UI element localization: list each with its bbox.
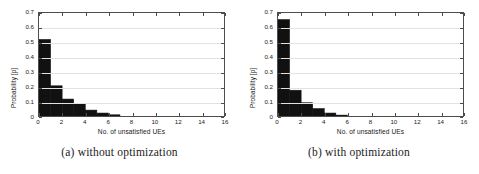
y-tick-mark <box>278 43 281 44</box>
plot-wrap-b: Probability [p] 00.10.20.30.40.50.60.7 0… <box>239 0 479 142</box>
histogram-bar <box>39 39 51 116</box>
histogram-bar <box>278 20 290 116</box>
x-tick-mark <box>86 113 87 116</box>
x-tick-label: 4 <box>83 119 86 125</box>
x-tick-label: 12 <box>175 119 182 125</box>
x-tick-mark <box>86 13 87 16</box>
y-tick-mark <box>221 103 224 104</box>
gridline <box>278 103 463 104</box>
y-tick-mark <box>39 103 42 104</box>
x-tick-label: 0 <box>36 119 39 125</box>
y-tick-label: 0.5 <box>264 39 273 45</box>
histogram-bar <box>74 103 86 116</box>
y-axis-label-a: Probability [p] <box>10 68 17 108</box>
x-tick-mark <box>109 113 110 116</box>
y-tick-mark <box>39 88 42 89</box>
gridline <box>39 28 224 29</box>
y-tick-mark <box>278 88 281 89</box>
x-tick-label: 0 <box>275 119 278 125</box>
x-tick-mark <box>325 113 326 116</box>
y-tick-mark <box>39 28 42 29</box>
y-tick-mark <box>460 103 463 104</box>
histogram-bar <box>313 109 325 116</box>
x-tick-mark <box>179 13 180 16</box>
y-tick-mark <box>221 43 224 44</box>
subfigure-caption-a: (a) without optimization <box>0 146 239 158</box>
x-tick-mark <box>395 13 396 16</box>
plot-area-b <box>277 12 464 117</box>
x-tick-mark <box>325 13 326 16</box>
x-tick-mark <box>203 113 204 116</box>
y-axis-a: Probability [p] 00.10.20.30.40.50.60.7 <box>0 12 34 117</box>
y-tick-mark <box>460 13 463 14</box>
gridline <box>39 73 224 74</box>
y-axis-b: Probability [p] 00.10.20.30.40.50.60.7 <box>239 12 273 117</box>
y-tick-mark <box>278 103 281 104</box>
x-tick-mark <box>395 113 396 116</box>
x-tick-mark <box>156 13 157 16</box>
x-tick-mark <box>442 13 443 16</box>
gridline <box>39 88 224 89</box>
y-tick-label: 0.5 <box>25 39 34 45</box>
histogram-bar <box>336 115 348 116</box>
x-tick-label: 8 <box>369 119 372 125</box>
y-tick-mark <box>460 73 463 74</box>
y-tick-mark <box>278 28 281 29</box>
x-tick-mark <box>301 113 302 116</box>
x-tick-mark <box>464 13 465 16</box>
y-tick-mark <box>460 88 463 89</box>
x-tick-label: 2 <box>60 119 63 125</box>
y-tick-label: 0.2 <box>25 84 34 90</box>
y-tick-label: 0.3 <box>25 69 34 75</box>
subfigure-caption-b: (b) with optimization <box>239 146 479 158</box>
figure-container: Probability [p] 00.10.20.30.40.50.60.7 0… <box>0 0 479 174</box>
y-axis-label-b: Probability [p] <box>249 68 256 108</box>
y-tick-label: 0.1 <box>25 99 34 105</box>
subfigure-b: Probability [p] 00.10.20.30.40.50.60.7 0… <box>239 0 479 174</box>
plot-wrap-a: Probability [p] 00.10.20.30.40.50.60.7 0… <box>0 0 239 142</box>
y-tick-mark <box>278 73 281 74</box>
x-tick-mark <box>278 13 279 16</box>
y-tick-label: 0.2 <box>264 84 273 90</box>
x-tick-label: 4 <box>322 119 325 125</box>
gridline <box>278 28 463 29</box>
x-axis-label-a: No. of unsatisfied UEs <box>38 128 225 135</box>
gridline <box>278 88 463 89</box>
y-tick-label: 0.4 <box>264 54 273 60</box>
x-tick-mark <box>62 13 63 16</box>
y-tick-label: 0.7 <box>264 9 273 15</box>
gridline <box>278 73 463 74</box>
x-axis-label-b: No. of unsatisfied UEs <box>277 128 464 135</box>
histogram-bar <box>85 110 97 116</box>
x-tick-mark <box>301 13 302 16</box>
x-tick-label: 8 <box>130 119 133 125</box>
y-tick-mark <box>39 58 42 59</box>
x-tick-mark <box>39 113 40 116</box>
x-tick-label: 14 <box>437 119 444 125</box>
y-tick-mark <box>39 117 42 118</box>
x-tick-mark <box>278 113 279 116</box>
y-tick-mark <box>460 28 463 29</box>
x-tick-mark <box>62 113 63 116</box>
y-tick-mark <box>221 58 224 59</box>
histogram-bar <box>62 99 74 116</box>
x-tick-label: 6 <box>106 119 109 125</box>
y-tick-label: 0 <box>31 114 34 120</box>
x-tick-label: 12 <box>414 119 421 125</box>
y-tick-mark <box>221 28 224 29</box>
x-tick-mark <box>203 13 204 16</box>
gridline <box>39 58 224 59</box>
x-tick-label: 6 <box>345 119 348 125</box>
y-tick-mark <box>39 73 42 74</box>
x-tick-label: 14 <box>198 119 205 125</box>
histogram-bar <box>324 113 336 116</box>
x-tick-mark <box>133 13 134 16</box>
x-tick-label: 16 <box>222 119 229 125</box>
y-tick-mark <box>39 43 42 44</box>
x-tick-mark <box>418 113 419 116</box>
gridline <box>39 103 224 104</box>
x-tick-mark <box>109 13 110 16</box>
x-tick-mark <box>39 13 40 16</box>
x-tick-label: 16 <box>461 119 468 125</box>
y-tick-mark <box>221 13 224 14</box>
